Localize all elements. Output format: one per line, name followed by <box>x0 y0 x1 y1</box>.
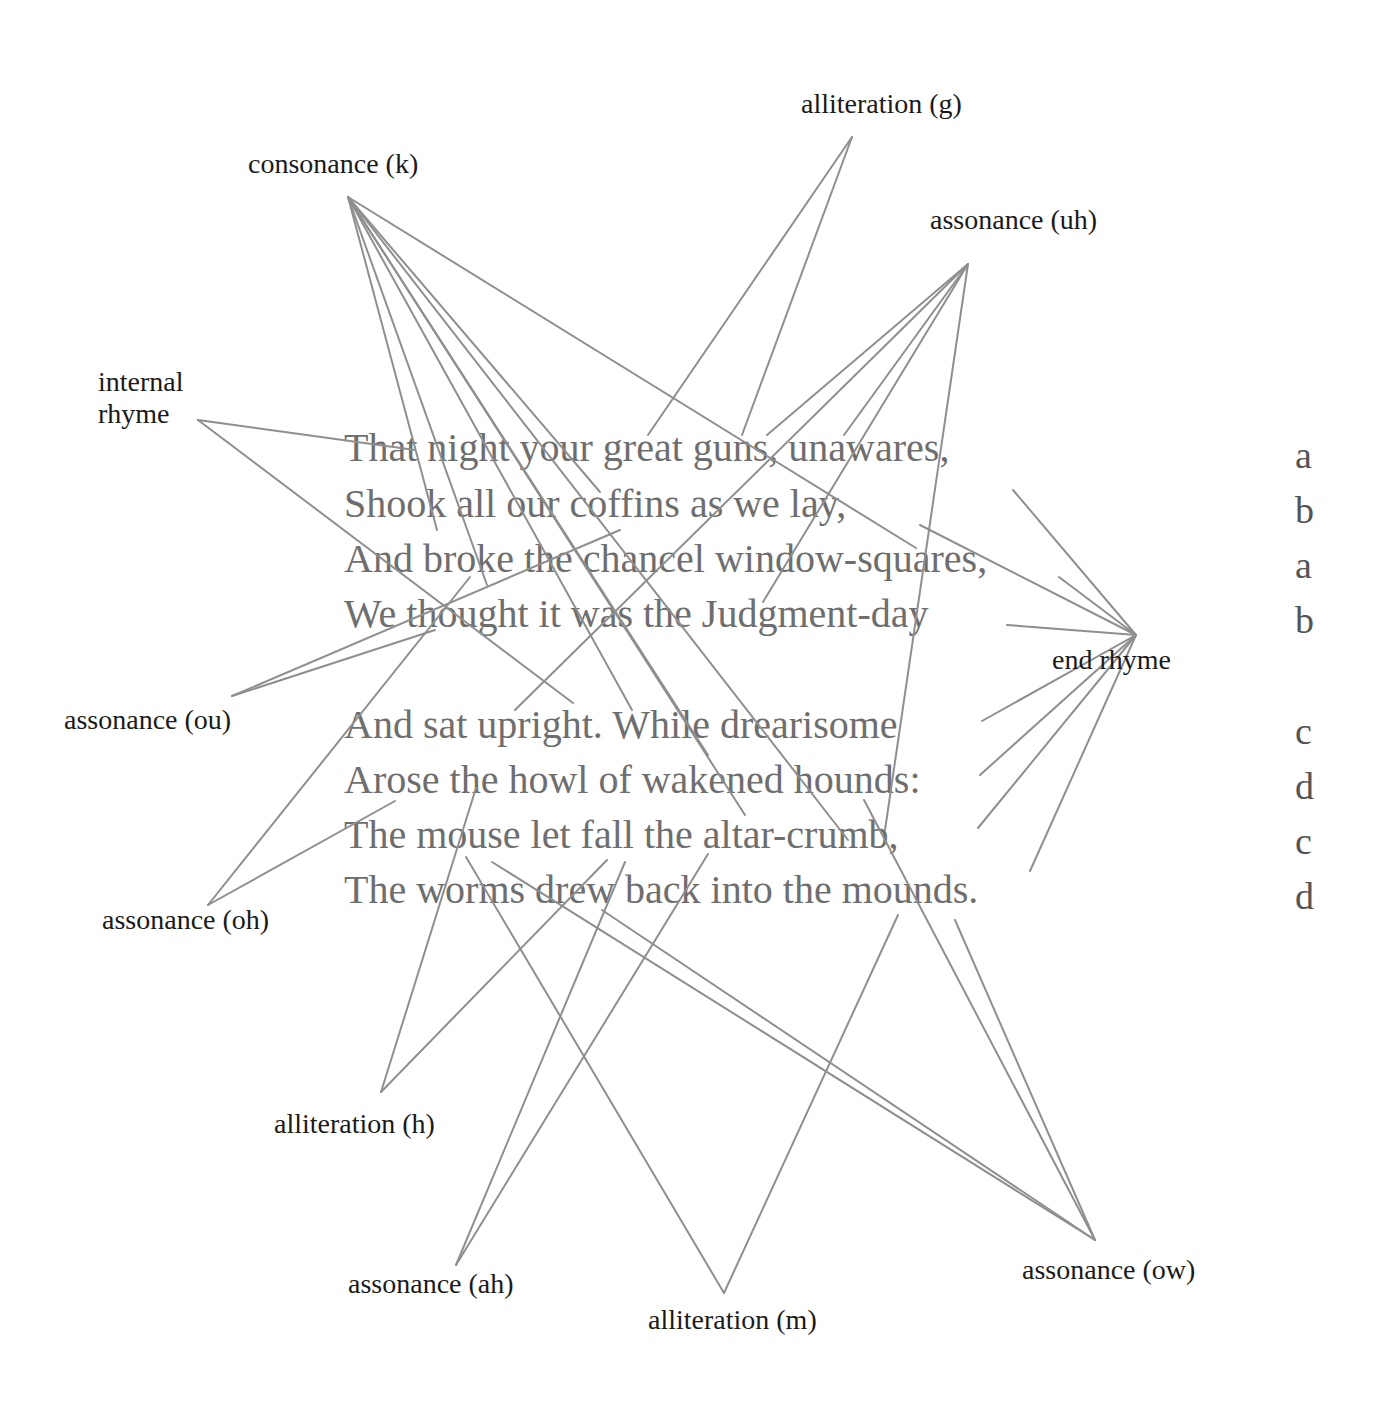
connector-assonance_ow <box>955 920 1095 1240</box>
label-internal-rhyme: internal rhyme <box>98 366 184 430</box>
label-alliteration-m: alliteration (m) <box>648 1304 817 1336</box>
label-alliteration-g: alliteration (g) <box>801 88 962 120</box>
label-internal-rhyme-line1: internal <box>98 366 184 398</box>
connector-lines <box>0 0 1382 1401</box>
label-assonance-uh: assonance (uh) <box>930 204 1097 236</box>
poem-line-5: And sat upright. While drearisome <box>344 705 898 745</box>
label-assonance-ow: assonance (ow) <box>1022 1254 1195 1286</box>
rhyme-scheme-letter: a <box>1295 546 1312 584</box>
rhyme-scheme-letter: c <box>1295 712 1312 750</box>
label-assonance-ah: assonance (ah) <box>348 1268 514 1300</box>
connector-consonance_k <box>348 197 708 755</box>
label-end-rhyme: end rhyme <box>1052 644 1171 676</box>
poem-line-8: The worms drew back into the mounds. <box>344 870 978 910</box>
poem-line-7: The mouse let fall the altar-crumb, <box>344 815 899 855</box>
label-assonance-ou: assonance (ou) <box>64 704 231 736</box>
connector-assonance_ah <box>456 862 625 1265</box>
poem-line-1: That night your great guns, unawares, <box>344 428 949 468</box>
connector-alliteration_g <box>648 137 852 435</box>
poem-line-6: Arose the howl of wakened hounds: <box>344 760 921 800</box>
connector-end_rhyme <box>1059 577 1136 635</box>
connector-assonance_ow <box>602 910 1095 1240</box>
connector-end_rhyme <box>1007 625 1136 635</box>
poem-line-4: We thought it was the Judgment-day <box>344 594 928 634</box>
rhyme-scheme-letter: d <box>1295 767 1314 805</box>
poem-line-2: Shook all our coffins as we lay, <box>344 484 846 524</box>
connector-end_rhyme <box>1013 490 1136 635</box>
label-alliteration-h: alliteration (h) <box>274 1108 435 1140</box>
connector-assonance_uh <box>844 264 968 435</box>
poem-line-3: And broke the chancel window-squares, <box>344 539 987 579</box>
rhyme-scheme-letter: b <box>1295 491 1314 529</box>
connector-assonance_ah <box>456 854 708 1265</box>
label-assonance-oh: assonance (oh) <box>102 904 269 936</box>
poetic-devices-diagram: That night your great guns, unawares, Sh… <box>0 0 1382 1401</box>
label-consonance-k: consonance (k) <box>248 148 418 180</box>
rhyme-scheme-letter: c <box>1295 822 1312 860</box>
label-internal-rhyme-line2: rhyme <box>98 398 184 430</box>
rhyme-scheme-letter: b <box>1295 601 1314 639</box>
connector-consonance_k <box>348 197 487 585</box>
connector-assonance_uh <box>767 264 968 435</box>
rhyme-scheme-letter: a <box>1295 436 1312 474</box>
connector-alliteration_m <box>466 857 724 1293</box>
connector-assonance_ow <box>864 800 1095 1240</box>
connector-assonance_ou <box>232 630 435 696</box>
rhyme-scheme-letter: d <box>1295 877 1314 915</box>
connector-alliteration_g <box>742 137 852 435</box>
connector-assonance_ow <box>492 862 1095 1240</box>
connector-alliteration_m <box>724 915 898 1293</box>
